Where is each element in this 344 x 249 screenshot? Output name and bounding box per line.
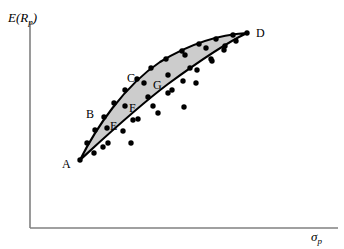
interior-point-dot — [100, 144, 105, 149]
portfolio-feasible-set-figure: E(Rp) σp ABCDEFG — [0, 0, 344, 249]
y-axis-label: E(Rp) — [8, 11, 37, 27]
interior-point-dot — [169, 87, 174, 92]
interior-point-dot — [128, 140, 133, 145]
boundary-point-dot — [101, 114, 106, 119]
interior-point-dot — [155, 110, 160, 115]
boundary-point-dot — [230, 32, 235, 37]
point-label-a: A — [62, 158, 71, 170]
boundary-points-group — [77, 30, 249, 162]
boundary-point-dot — [148, 65, 153, 70]
plot-canvas — [0, 0, 344, 249]
y-axis-label-main: E(R — [8, 10, 28, 25]
boundary-point-dot — [134, 76, 139, 81]
point-label-b: B — [86, 108, 94, 120]
interior-point-dot — [104, 125, 109, 130]
boundary-point-dot — [233, 38, 238, 43]
interior-point-dot — [145, 94, 150, 99]
point-label-e: E — [110, 120, 117, 132]
feasible-set-shape — [80, 33, 247, 160]
x-axis-label-subscript: p — [317, 236, 322, 246]
boundary-point-dot — [120, 128, 125, 133]
boundary-point-dot — [194, 67, 199, 72]
boundary-point-dot — [163, 56, 168, 61]
boundary-point-dot — [122, 87, 127, 92]
y-axis-label-close: ) — [33, 10, 37, 25]
interior-point-dot — [187, 65, 192, 70]
boundary-point-dot — [91, 150, 96, 155]
boundary-point-dot — [135, 116, 140, 121]
feasible-set-region — [80, 33, 247, 160]
boundary-point-dot — [150, 103, 155, 108]
interior-point-dot — [222, 43, 227, 48]
interior-point-dot — [122, 103, 127, 108]
interior-point-dot — [193, 80, 198, 85]
boundary-point-dot — [180, 78, 185, 83]
boundary-point-dot — [111, 100, 116, 105]
interior-point-dot — [203, 45, 208, 50]
boundary-point-dot — [105, 140, 110, 145]
boundary-point-dot — [77, 157, 82, 162]
interior-point-dot — [165, 72, 170, 77]
boundary-point-dot — [92, 127, 97, 132]
interior-point-dot — [209, 58, 214, 63]
interior-point-dot — [130, 117, 135, 122]
point-label-g: G — [153, 79, 162, 91]
boundary-point-dot — [196, 41, 201, 46]
point-label-c: C — [127, 72, 135, 84]
boundary-point-dot — [84, 140, 89, 145]
boundary-point-dot — [244, 30, 249, 35]
x-axis-label: σp — [311, 230, 322, 246]
interior-point-dot — [141, 80, 146, 85]
interior-point-dot — [181, 104, 186, 109]
interior-point-dot — [182, 52, 187, 57]
boundary-point-dot — [213, 36, 218, 41]
point-label-f: F — [129, 102, 136, 114]
point-label-d: D — [256, 27, 265, 39]
